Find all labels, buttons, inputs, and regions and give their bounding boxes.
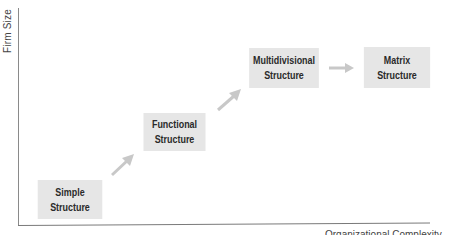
functional-structure-box: Functional Structure (143, 113, 205, 151)
simple-structure-box: Simple Structure (38, 180, 103, 219)
node-label-line2: Structure (377, 68, 417, 83)
y-axis-label: Firm Size (2, 1, 16, 61)
arrow-up-right-icon (214, 84, 244, 114)
arrow-up-right-icon (108, 150, 138, 180)
arrow-right-icon (328, 61, 356, 75)
matrix-structure-box: Matrix Structure (364, 47, 430, 88)
node-label-line1: Functional (152, 117, 197, 132)
node-label-line2: Structure (155, 132, 195, 147)
node-label-line1: Matrix (384, 53, 410, 68)
node-label-line2: Structure (50, 200, 90, 215)
multidivisional-structure-box: Multidivisional Structure (249, 48, 319, 88)
node-label-line1: Simple (55, 185, 84, 200)
node-label-line2: Structure (264, 68, 304, 83)
x-axis-line (18, 222, 430, 226)
y-axis-line (18, 8, 19, 226)
node-label-line1: Multidivisional (253, 53, 315, 68)
x-axis-label: Organizational Complexity (325, 229, 445, 235)
